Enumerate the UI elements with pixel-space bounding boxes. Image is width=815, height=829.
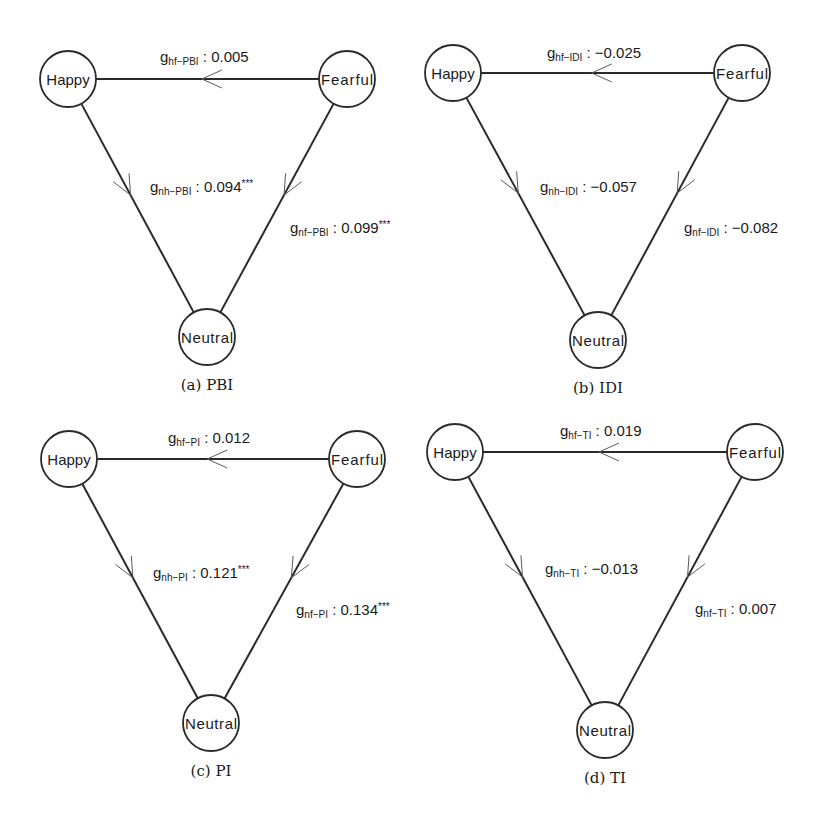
- coefficient-symbol: g: [545, 560, 553, 577]
- coefficient-subscript: nh−PBI: [158, 186, 191, 197]
- node-neutral: Neutral: [577, 702, 633, 758]
- node-label: Neutral: [579, 722, 631, 739]
- edge-hf: ghf−TI : 0.019: [483, 422, 727, 461]
- edge-nh: gnh−PI : 0.121***: [82, 484, 249, 699]
- edge-line: [618, 477, 741, 706]
- coefficient-value: 0.007: [739, 600, 777, 617]
- coefficient-subscript: hf−PBI: [168, 56, 198, 67]
- coefficient-value: 0.121: [200, 564, 238, 581]
- node-fearful: Fearful: [329, 431, 385, 487]
- separator: :: [200, 429, 213, 446]
- node-label: Fearful: [321, 71, 373, 88]
- edge-nf: gnf−PBI : 0.099***: [220, 104, 390, 313]
- node-neutral: Neutral: [570, 312, 626, 368]
- edge-hf: ghf−IDI : −0.025: [481, 44, 714, 82]
- edge-label-hf: ghf−PBI : 0.005: [160, 48, 249, 67]
- edge-hf: ghf−PI : 0.012: [97, 429, 329, 468]
- panel-caption: (b) IDI: [573, 379, 623, 397]
- coefficient-value: 0.012: [213, 429, 251, 446]
- coefficient-symbol: g: [695, 600, 703, 617]
- coefficient-symbol: g: [296, 601, 304, 618]
- coefficient-value: 0.094: [204, 178, 242, 195]
- edge-label-hf: ghf−PI : 0.012: [168, 429, 250, 448]
- coefficient-subscript: nf−PBI: [298, 227, 328, 238]
- edge-line: [220, 104, 333, 313]
- node-fearful: Fearful: [727, 424, 783, 480]
- separator: :: [591, 422, 604, 439]
- edge-label-hf: ghf−TI : 0.019: [560, 422, 641, 441]
- significance-marker: ***: [378, 601, 390, 612]
- coefficient-subscript: hf−IDI: [555, 52, 582, 63]
- separator: :: [328, 601, 341, 618]
- coefficient-value: −0.057: [591, 178, 637, 195]
- coefficient-symbol: g: [160, 48, 168, 65]
- edge-label-nh: gnh−PI : 0.121***: [153, 564, 250, 583]
- coefficient-symbol: g: [150, 178, 158, 195]
- edge-nf: gnf−PI : 0.134***: [225, 484, 390, 699]
- edge-nh: gnh−TI : −0.013: [468, 477, 638, 706]
- edge-label-nh: gnh−TI : −0.013: [545, 560, 638, 579]
- edge-label-nf: gnf−TI : 0.007: [695, 600, 776, 619]
- panel-b: ghf−IDI : −0.025gnh−IDI : −0.057gnf−IDI …: [425, 44, 778, 397]
- edge-line: [225, 484, 344, 699]
- node-label: Fearful: [729, 444, 781, 461]
- edge-line: [468, 477, 591, 706]
- coefficient-subscript: hf−TI: [568, 430, 591, 441]
- edge-label-nf: gnf−PI : 0.134***: [296, 601, 390, 620]
- coefficient-symbol: g: [168, 429, 176, 446]
- node-neutral: Neutral: [183, 695, 239, 751]
- coefficient-symbol: g: [684, 219, 692, 236]
- separator: :: [582, 44, 595, 61]
- panel-d: ghf−TI : 0.019gnh−TI : −0.013gnf−TI : 0.…: [427, 422, 783, 787]
- edge-nf: gnf−IDI : −0.082: [611, 98, 778, 316]
- edge-nh: gnh−PBI : 0.094***: [81, 104, 253, 313]
- panel-caption: (d) TI: [584, 769, 626, 787]
- significance-marker: ***: [238, 564, 250, 575]
- coefficient-value: 0.019: [604, 422, 642, 439]
- coefficient-subscript: nh−TI: [553, 568, 579, 579]
- emotion-network-figure: ghf−PBI : 0.005gnh−PBI : 0.094***gnf−PBI…: [0, 0, 815, 829]
- separator: :: [329, 219, 342, 236]
- node-happy: Happy: [41, 431, 97, 487]
- coefficient-subscript: nh−IDI: [548, 186, 578, 197]
- coefficient-value: 0.134: [341, 601, 379, 618]
- edge-hf: ghf−PBI : 0.005: [96, 48, 319, 88]
- separator: :: [188, 564, 201, 581]
- coefficient-subscript: nf−IDI: [692, 227, 719, 238]
- node-happy: Happy: [425, 45, 481, 101]
- separator: :: [578, 178, 591, 195]
- edge-label-hf: ghf−IDI : −0.025: [547, 44, 641, 63]
- coefficient-symbol: g: [153, 564, 161, 581]
- node-label: Happy: [433, 444, 477, 461]
- edge-nh: gnh−IDI : −0.057: [466, 98, 637, 316]
- node-happy: Happy: [427, 424, 483, 480]
- coefficient-symbol: g: [540, 178, 548, 195]
- node-label: Neutral: [572, 332, 624, 349]
- panel-caption: (a) PBI: [181, 376, 234, 394]
- panel-caption: (c) PI: [191, 762, 232, 780]
- edge-line: [466, 98, 584, 316]
- edge-line: [82, 484, 197, 699]
- node-label: Fearful: [331, 451, 383, 468]
- edge-label-nh: gnh−PBI : 0.094***: [150, 178, 253, 197]
- node-happy: Happy: [40, 51, 96, 107]
- node-label: Neutral: [181, 329, 233, 346]
- edge-label-nf: gnf−PBI : 0.099***: [290, 219, 391, 238]
- panel-a: ghf−PBI : 0.005gnh−PBI : 0.094***gnf−PBI…: [40, 48, 391, 394]
- node-label: Happy: [46, 71, 90, 88]
- significance-marker: ***: [379, 219, 391, 230]
- coefficient-subscript: nf−TI: [703, 608, 726, 619]
- separator: :: [726, 600, 739, 617]
- node-label: Neutral: [185, 715, 237, 732]
- node-label: Happy: [47, 451, 91, 468]
- coefficient-symbol: g: [560, 422, 568, 439]
- node-fearful: Fearful: [714, 45, 770, 101]
- edge-nf: gnf−TI : 0.007: [618, 477, 776, 706]
- separator: :: [199, 48, 212, 65]
- node-fearful: Fearful: [319, 51, 375, 107]
- edge-line: [611, 98, 728, 316]
- separator: :: [579, 560, 592, 577]
- edge-line: [81, 104, 193, 313]
- separator: :: [719, 219, 732, 236]
- coefficient-subscript: hf−PI: [176, 437, 200, 448]
